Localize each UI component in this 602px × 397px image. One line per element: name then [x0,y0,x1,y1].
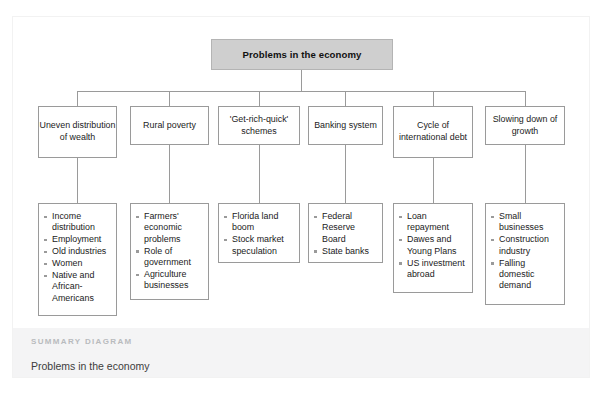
connector-bus [77,91,526,92]
branch-node-2-label: Rural poverty [143,120,196,132]
list-item: Old industries [44,246,110,257]
list-item: Role of government [136,246,202,269]
list-item: State banks [314,246,376,257]
leaf-list-6: Small businesses Construction industry F… [491,211,558,292]
connector-drop-4 [345,91,346,106]
list-item: Falling domestic demand [491,258,558,292]
page-root: Problems in the economy Uneven distribut… [0,0,602,397]
connector-stem-4 [345,145,346,203]
leaf-list-5: Loan repayment Dawes and Young Plans US … [399,211,466,280]
leaf-box-5[interactable]: Loan repayment Dawes and Young Plans US … [393,203,473,293]
connector-stem-6 [525,145,526,203]
root-node[interactable]: Problems in the economy [211,39,393,70]
connector-drop-2 [169,91,170,106]
summary-kicker: SUMMARY DIAGRAM [31,337,133,346]
connector-drop-1 [77,91,78,106]
summary-title: Problems in the economy [31,360,149,372]
branch-node-4[interactable]: Banking system [308,106,383,145]
branch-node-1-label: Uneven distribution of wealth [39,120,116,143]
list-item: Federal Reserve Board [314,211,376,245]
connector-stem-2 [169,145,170,203]
branch-node-2[interactable]: Rural poverty [130,106,209,145]
branch-node-1[interactable]: Uneven distribution of wealth [38,106,117,158]
branch-node-5[interactable]: Cycle of international debt [393,106,473,158]
list-item: Stock market speculation [224,234,293,257]
connector-drop-6 [525,91,526,106]
list-item: Construction industry [491,234,558,257]
leaf-box-6[interactable]: Small businesses Construction industry F… [485,203,565,305]
list-item: Employment [44,234,110,245]
list-item: Florida land boom [224,211,293,234]
branch-node-3[interactable]: 'Get-rich-quick' schemes [218,106,300,145]
branch-node-3-label: 'Get-rich-quick' schemes [219,114,299,137]
list-item: Agriculture businesses [136,269,202,292]
list-item: Income distribution [44,211,110,234]
branch-node-6[interactable]: Slowing down of growth [485,106,565,145]
list-item: Small businesses [491,211,558,234]
list-item: Farmers' economic problems [136,211,202,245]
connector-root-stem [301,70,302,91]
leaf-list-4: Federal Reserve Board State banks [314,211,376,257]
leaf-list-1: Income distribution Employment Old indus… [44,211,110,304]
branch-node-6-label: Slowing down of growth [486,114,564,137]
leaf-box-3[interactable]: Florida land boom Stock market speculati… [218,203,300,263]
list-item: US investment abroad [399,258,466,281]
list-item: Women [44,258,110,269]
leaf-box-1[interactable]: Income distribution Employment Old indus… [38,203,117,316]
branch-node-4-label: Banking system [314,120,377,132]
connector-drop-3 [259,91,260,106]
connector-drop-5 [433,91,434,106]
list-item: Native and African-Americans [44,270,110,304]
leaf-list-2: Farmers' economic problems Role of gover… [136,211,202,292]
root-node-label: Problems in the economy [242,49,361,60]
connector-stem-3 [259,145,260,203]
leaf-box-2[interactable]: Farmers' economic problems Role of gover… [130,203,209,300]
list-item: Dawes and Young Plans [399,234,466,257]
connector-stem-1 [77,158,78,203]
leaf-box-4[interactable]: Federal Reserve Board State banks [308,203,383,263]
leaf-list-3: Florida land boom Stock market speculati… [224,211,293,257]
branch-node-5-label: Cycle of international debt [394,120,472,143]
list-item: Loan repayment [399,211,466,234]
connector-stem-5 [433,158,434,203]
